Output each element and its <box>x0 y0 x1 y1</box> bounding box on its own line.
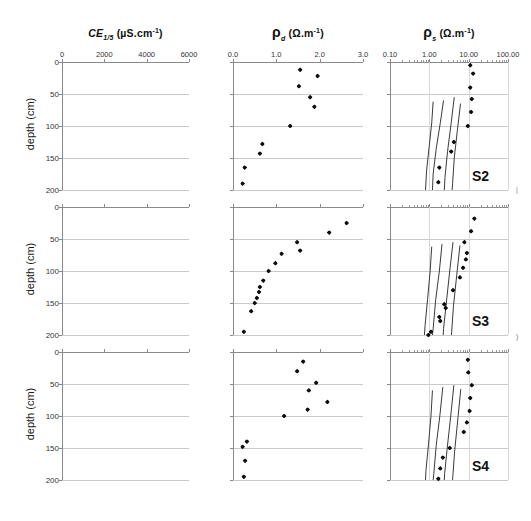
axis-title-unit: (Ω.m-1) <box>439 27 474 39</box>
gridline-depth-200 <box>233 480 363 481</box>
axis-spine-left <box>233 352 234 480</box>
gridline-depth-150 <box>62 303 189 304</box>
ytick-150 <box>230 158 233 159</box>
column-header-rho_d: ρd (Ω.m-1) <box>233 26 363 39</box>
xtick-label-rho_d-1: 1.0 <box>271 50 281 59</box>
ytick-200 <box>230 190 233 191</box>
model-curves <box>390 352 508 480</box>
data-point-filled-diamond <box>249 309 254 314</box>
data-point-filled-diamond <box>279 251 284 256</box>
gridline-depth-0 <box>62 207 189 208</box>
ytick-50 <box>59 94 62 95</box>
ytick-100 <box>230 416 233 417</box>
xtick-labels-rho_s: 0.101.0010.00100.00 <box>390 50 508 62</box>
ytick-150 <box>59 448 62 449</box>
xtick-100 <box>508 204 509 207</box>
gridline-depth-100 <box>233 416 363 417</box>
xtick-label-rho_s-1: 1.00 <box>422 50 437 59</box>
curve-4 <box>453 389 461 480</box>
xtick-0 <box>62 204 63 207</box>
panel-S4-ce: 050100150200 <box>62 352 189 480</box>
ytick-label-50: 50 <box>50 235 59 244</box>
axis-spine-left <box>62 62 63 190</box>
ytick-50 <box>59 384 62 385</box>
y-axis-label-S4: depth (cm) <box>24 374 36 454</box>
curve-3 <box>444 385 454 480</box>
data-point-filled-diamond <box>315 74 320 79</box>
ytick-200 <box>59 480 62 481</box>
ytick-label-150: 150 <box>46 154 59 163</box>
xtick-100 <box>508 349 509 352</box>
panel-S3-ce: 050100150200 <box>62 207 189 335</box>
gridline-depth-200 <box>62 335 189 336</box>
ytick-label-0: 0 <box>55 203 59 212</box>
ytick-label-200: 200 <box>46 186 59 195</box>
data-point-filled-diamond <box>308 95 313 100</box>
data-point-filled-diamond <box>273 261 278 266</box>
xtick-2000 <box>104 204 105 207</box>
xtick-label-rho_s-0: 0.10 <box>383 50 398 59</box>
xtick-label-rho_d-2: 2.0 <box>314 50 324 59</box>
ytick-label-50: 50 <box>50 90 59 99</box>
data-point-filled-diamond <box>295 240 300 245</box>
data-point-filled-diamond <box>301 359 306 364</box>
gridline-depth-100 <box>233 271 363 272</box>
model-curves <box>390 62 508 190</box>
xtick-4000 <box>147 349 148 352</box>
xtick-labels-ce: 0200040006000 <box>62 50 189 62</box>
data-point-filled-diamond <box>266 269 271 274</box>
ytick-200 <box>387 335 390 336</box>
ytick-label-50: 50 <box>50 380 59 389</box>
gridline-depth-200 <box>233 335 363 336</box>
data-point-filled-diamond <box>288 124 293 129</box>
gridline-depth-150 <box>62 448 189 449</box>
gridline-depth-0 <box>62 62 189 63</box>
axis-title-symbol: CE1/5 <box>88 27 113 39</box>
curve-2 <box>433 387 443 480</box>
gridline-depth-50 <box>233 239 363 240</box>
gridline-depth-100 <box>62 271 189 272</box>
gridline-depth-200 <box>390 335 508 336</box>
axis-spine-left <box>62 207 63 335</box>
axis-spine-left <box>62 352 63 480</box>
data-point-filled-diamond <box>298 67 303 72</box>
xtick-0 <box>233 349 234 352</box>
data-point-filled-diamond <box>257 151 262 156</box>
vgridline-100 <box>508 207 509 335</box>
gridline-depth-50 <box>62 94 189 95</box>
ytick-50 <box>230 384 233 385</box>
edge-mark-1: ) <box>516 333 518 340</box>
data-point-filled-diamond <box>312 104 317 109</box>
gridline-depth-0 <box>233 207 363 208</box>
data-point-filled-diamond <box>327 230 332 235</box>
gridline-depth-100 <box>233 126 363 127</box>
gridline-depth-200 <box>390 480 508 481</box>
ytick-label-0: 0 <box>55 348 59 357</box>
gridline-depth-50 <box>233 94 363 95</box>
ytick-label-200: 200 <box>46 331 59 340</box>
curve-3 <box>443 242 453 335</box>
axis-spine-left <box>233 207 234 335</box>
data-point-filled-diamond <box>282 414 287 419</box>
axis-title-symbol: ρd <box>272 24 285 40</box>
panel-S2-ce: 0501001502000200040006000 <box>62 62 189 190</box>
ytick-0 <box>59 207 62 208</box>
ytick-200 <box>59 190 62 191</box>
xtick-3 <box>363 59 364 62</box>
axis-spine-left <box>233 62 234 190</box>
gridline-depth-200 <box>62 480 189 481</box>
ytick-label-200: 200 <box>46 476 59 485</box>
y-axis-label-S2: depth (cm) <box>24 84 36 164</box>
column-header-ce: CE1/5 (µS.cm-1) <box>62 26 189 41</box>
xtick-label-rho_s-2: 10.00 <box>459 50 478 59</box>
xtick-label-rho_s-3: 100.00 <box>497 50 520 59</box>
curve-1 <box>424 247 431 335</box>
panel-S3-rho_d <box>233 207 363 335</box>
data-point-filled-diamond <box>296 84 301 89</box>
ytick-0 <box>59 352 62 353</box>
ytick-100 <box>59 416 62 417</box>
ytick-200 <box>59 335 62 336</box>
ytick-0 <box>59 62 62 63</box>
gridline-depth-0 <box>233 62 363 63</box>
ytick-label-100: 100 <box>46 122 59 131</box>
